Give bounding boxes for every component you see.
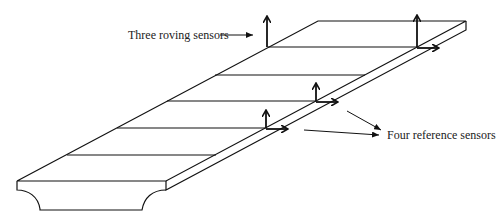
deck-side-face — [166, 21, 466, 190]
reference-pointer-arrow-1 — [347, 111, 381, 130]
sensors — [266, 15, 439, 129]
deck-outline — [17, 21, 466, 210]
bridge-deck-diagram — [0, 0, 496, 223]
label-pointers — [220, 35, 381, 135]
roving-sensors-label: Three roving sensors — [128, 29, 229, 41]
reference-sensors-label: Four reference sensors — [387, 129, 496, 141]
reference-pointer-arrow-2 — [304, 130, 379, 135]
deck-cross-section — [17, 181, 166, 210]
